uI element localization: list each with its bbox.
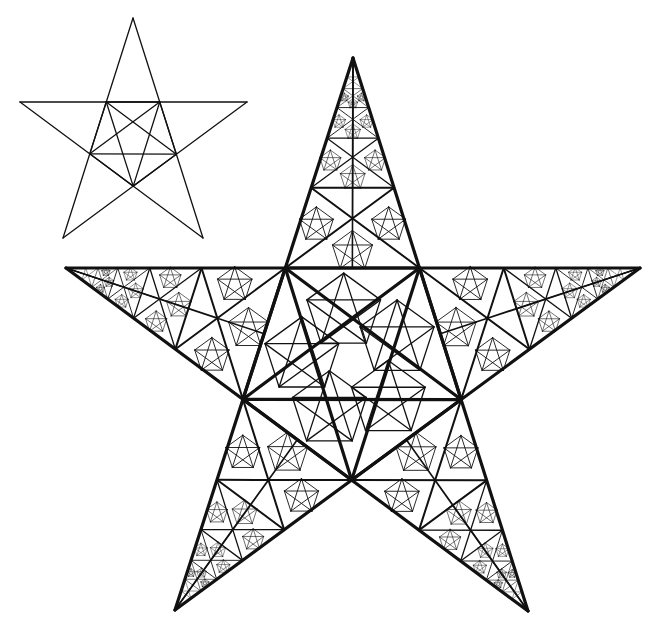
star-line: [217, 565, 228, 573]
star-line: [195, 338, 212, 350]
star-line: [345, 174, 365, 189]
star-line: [490, 548, 493, 557]
star-line: [202, 268, 243, 399]
star-line: [324, 150, 330, 170]
star-line: [369, 150, 375, 170]
star-line: [201, 350, 229, 370]
star-line: [329, 371, 352, 441]
star-line: [402, 479, 413, 512]
star-line: [351, 387, 365, 430]
star-line: [450, 436, 461, 468]
figure-canvas: Recursive pentagram fractal Basic pentag…: [0, 0, 667, 630]
star-line: [404, 447, 436, 471]
star-line: [252, 509, 257, 524]
star-line: [340, 230, 352, 268]
star-line: [156, 311, 163, 331]
star-line: [375, 150, 381, 170]
star-line: [365, 245, 373, 268]
star-line: [388, 361, 425, 388]
star-line: [444, 537, 461, 549]
star-line: [210, 502, 216, 522]
star-line: [316, 207, 326, 239]
star-line: [325, 344, 339, 387]
star-line: [345, 165, 353, 188]
star-line: [210, 548, 213, 557]
star-line: [118, 295, 122, 307]
star-line: [478, 543, 486, 549]
star-line: [365, 150, 375, 158]
star-line: [284, 491, 312, 511]
star-line: [372, 207, 389, 219]
star-line: [212, 338, 223, 371]
star-line: [299, 219, 326, 239]
star-line: [301, 479, 312, 511]
star-line: [498, 549, 509, 557]
star-line: [229, 322, 261, 345]
star-line: [476, 510, 493, 522]
star-line: [332, 245, 340, 268]
star-line: [456, 307, 476, 322]
star-line: [118, 299, 129, 307]
star-line: [332, 245, 364, 268]
star-line: [128, 283, 136, 289]
star-line: [391, 491, 419, 511]
star-line: [330, 150, 336, 170]
star-line: [201, 338, 212, 371]
star-line: [197, 548, 207, 556]
star-line: [388, 361, 411, 431]
star-line: [496, 549, 507, 557]
star-line: [529, 268, 555, 349]
star-line: [345, 124, 353, 130]
star-line: [223, 548, 226, 557]
star-line: [391, 479, 402, 512]
star-line: [253, 448, 259, 468]
star-line: [210, 510, 227, 522]
star-line: [363, 120, 373, 128]
star-line: [179, 292, 187, 315]
star-line: [366, 361, 389, 431]
star-line: [493, 338, 510, 350]
star-line: [416, 432, 428, 470]
star-line: [279, 317, 302, 387]
star-line: [311, 138, 378, 188]
star-line: [232, 509, 252, 524]
star-line: [321, 300, 381, 343]
star-line: [570, 283, 578, 289]
star-line: [538, 319, 555, 331]
star-line: [487, 503, 494, 523]
star-line: [475, 350, 482, 370]
star-line: [396, 447, 428, 471]
star-line: [482, 338, 493, 371]
star-line: [237, 500, 245, 523]
star-line: [459, 501, 471, 510]
star-line: [268, 447, 300, 470]
star-line: [275, 432, 287, 470]
star-line: [218, 279, 246, 299]
star-line: [353, 165, 365, 174]
star-line: [444, 448, 472, 468]
star-line: [189, 585, 193, 591]
star-line: [219, 560, 223, 572]
star-line: [389, 207, 399, 239]
large-star-fractal: [0, 0, 667, 630]
star-line: [253, 529, 260, 549]
star-line: [396, 432, 416, 447]
star-line: [344, 273, 381, 300]
star-line: [519, 292, 527, 316]
star-line: [166, 301, 186, 316]
star-line: [411, 387, 425, 430]
star-line: [493, 338, 504, 371]
star-line: [299, 219, 305, 239]
star-line: [329, 371, 366, 398]
star-line: [226, 448, 253, 468]
star-line: [444, 307, 456, 345]
star-line: [475, 350, 503, 370]
star-line: [535, 267, 542, 287]
star-line: [353, 124, 361, 130]
star-line: [339, 115, 343, 127]
star-line: [446, 501, 458, 510]
star-line: [247, 529, 254, 549]
star-line: [444, 448, 451, 468]
star-line: [377, 349, 393, 399]
star-line: [194, 548, 204, 556]
